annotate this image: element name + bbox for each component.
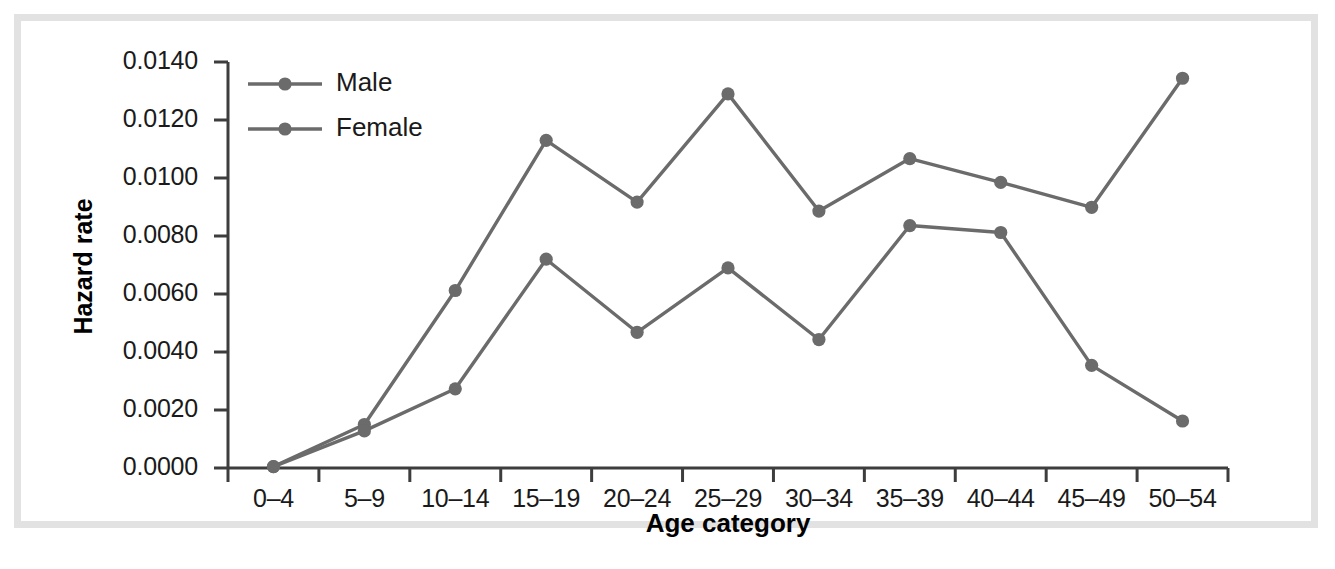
data-point-male-4	[630, 195, 643, 208]
data-point-female-8	[994, 226, 1007, 239]
data-point-female-10	[1176, 414, 1189, 427]
legend-label-male: Male	[336, 67, 392, 98]
data-point-female-9	[1085, 359, 1098, 372]
figure-container: Hazard rate Age category 0.00000.00200.0…	[0, 0, 1335, 569]
data-point-male-5	[721, 87, 734, 100]
data-point-female-1	[358, 424, 371, 437]
legend-swatch-marker-female	[278, 122, 291, 135]
data-point-female-2	[449, 382, 462, 395]
x-tick-label: 50–54	[1103, 484, 1263, 513]
data-point-male-7	[903, 152, 916, 165]
data-point-female-5	[721, 261, 734, 274]
y-tick-label: 0.0020	[78, 394, 198, 423]
x-axis-tick-marks	[228, 468, 1228, 482]
y-tick-label: 0.0000	[78, 452, 198, 481]
y-tick-label: 0.0140	[78, 46, 198, 75]
data-point-male-6	[812, 204, 825, 217]
y-tick-label: 0.0100	[78, 162, 198, 191]
y-tick-label: 0.0080	[78, 220, 198, 249]
data-point-male-2	[449, 284, 462, 297]
data-point-male-8	[994, 176, 1007, 189]
data-point-female-0	[267, 460, 280, 473]
legend-label-female: Female	[336, 112, 423, 143]
y-tick-label: 0.0120	[78, 104, 198, 133]
data-point-female-7	[903, 219, 916, 232]
y-axis-tick-marks	[214, 62, 228, 468]
data-point-male-3	[540, 134, 553, 147]
legend-swatch-marker-male	[278, 77, 291, 90]
y-tick-label: 0.0060	[78, 278, 198, 307]
data-point-male-10	[1176, 72, 1189, 85]
data-point-female-3	[540, 253, 553, 266]
legend-swatches	[248, 77, 322, 135]
data-point-female-6	[812, 333, 825, 346]
y-tick-label: 0.0040	[78, 336, 198, 365]
data-point-male-9	[1085, 201, 1098, 214]
data-point-female-4	[630, 326, 643, 339]
